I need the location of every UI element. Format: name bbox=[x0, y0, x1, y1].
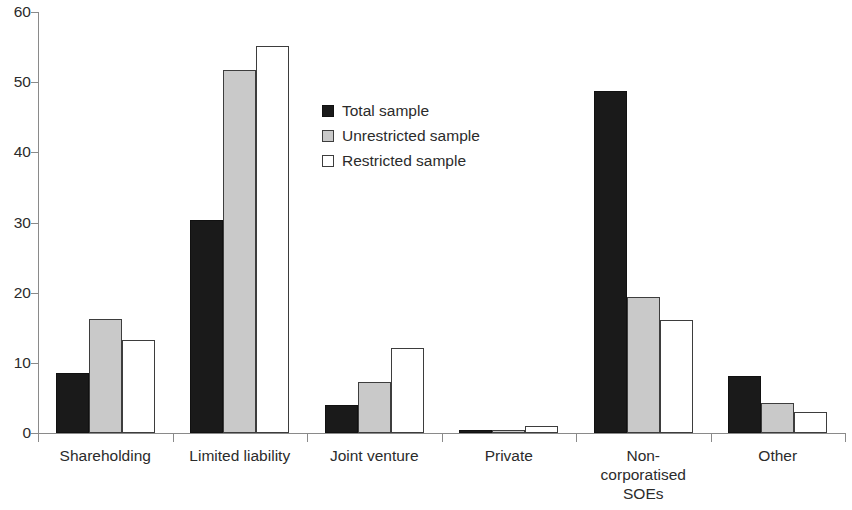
bar bbox=[223, 70, 256, 433]
bar bbox=[459, 430, 492, 434]
x-axis-tick bbox=[576, 433, 577, 442]
bar-chart: 0102030405060 ShareholdingLimited liabil… bbox=[0, 0, 852, 510]
bar-group bbox=[325, 12, 424, 433]
y-axis-tick-label: 20 bbox=[3, 285, 31, 301]
legend-item-unrestricted-sample: Unrestricted sample bbox=[322, 123, 480, 148]
bar-group bbox=[594, 12, 693, 433]
legend-label-total-sample: Total sample bbox=[342, 103, 429, 119]
bar-group bbox=[728, 12, 827, 433]
y-axis-tick-label: 50 bbox=[3, 74, 31, 90]
legend-swatch-total-sample bbox=[322, 105, 334, 117]
x-axis-tick bbox=[307, 433, 308, 442]
x-axis-category-label-line: Shareholding bbox=[38, 446, 173, 465]
x-axis-category-label-line: Other bbox=[711, 446, 846, 465]
x-axis-category-label-line: corporatised bbox=[576, 465, 711, 484]
bar bbox=[627, 297, 660, 433]
legend-item-restricted-sample: Restricted sample bbox=[322, 148, 480, 173]
y-axis-tick-label: 60 bbox=[3, 4, 31, 20]
x-axis-category-label: Other bbox=[711, 446, 846, 465]
y-axis-tick-label: 30 bbox=[3, 215, 31, 231]
legend-swatch-unrestricted-sample bbox=[322, 130, 334, 142]
x-axis-tick bbox=[442, 433, 443, 442]
x-axis-category-label: Non-corporatisedSOEs bbox=[576, 446, 711, 503]
x-axis-category-label-line: Joint venture bbox=[307, 446, 442, 465]
bar bbox=[190, 220, 223, 433]
x-axis-tick bbox=[845, 433, 846, 442]
bar bbox=[358, 382, 391, 433]
y-axis-tick-label: 10 bbox=[3, 355, 31, 371]
bar-group bbox=[56, 12, 155, 433]
bar bbox=[56, 373, 89, 433]
y-axis-tick-label: 40 bbox=[3, 144, 31, 160]
bar-group bbox=[459, 12, 558, 433]
plot-area bbox=[38, 12, 845, 433]
bar bbox=[761, 403, 794, 433]
x-axis-category-label: Shareholding bbox=[38, 446, 173, 465]
legend-swatch-restricted-sample bbox=[322, 155, 334, 167]
bar bbox=[794, 412, 827, 433]
x-axis-category-label-line: SOEs bbox=[576, 484, 711, 503]
bar bbox=[325, 405, 358, 433]
legend-label-unrestricted-sample: Unrestricted sample bbox=[342, 128, 480, 144]
x-axis-category-label-line: Private bbox=[442, 446, 577, 465]
x-axis-category-label-line: Non- bbox=[576, 446, 711, 465]
chart-legend: Total sample Unrestricted sample Restric… bbox=[322, 98, 480, 173]
y-axis-tick-label: 0 bbox=[3, 425, 31, 441]
bar bbox=[89, 319, 122, 433]
y-axis-tick-labels: 0102030405060 bbox=[0, 0, 31, 510]
legend-item-total-sample: Total sample bbox=[322, 98, 480, 123]
x-axis-category-label: Private bbox=[442, 446, 577, 465]
x-axis-category-label: Limited liability bbox=[173, 446, 308, 465]
bar bbox=[660, 320, 693, 433]
x-axis-category-label-line: Limited liability bbox=[173, 446, 308, 465]
bar bbox=[594, 91, 627, 433]
bar-group bbox=[190, 12, 289, 433]
bar bbox=[256, 46, 289, 433]
bar bbox=[728, 376, 761, 433]
bar bbox=[122, 340, 155, 433]
x-axis-tick bbox=[38, 433, 39, 442]
x-axis-tick bbox=[711, 433, 712, 442]
bar bbox=[492, 430, 525, 433]
legend-label-restricted-sample: Restricted sample bbox=[342, 153, 466, 169]
bar bbox=[525, 426, 558, 433]
x-axis-category-label: Joint venture bbox=[307, 446, 442, 465]
bar bbox=[391, 348, 424, 433]
x-axis-tick bbox=[173, 433, 174, 442]
